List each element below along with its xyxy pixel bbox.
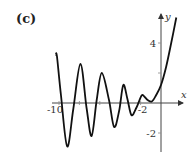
chart: -10-24-2xy	[0, 0, 195, 156]
curve-line	[56, 18, 176, 147]
x-axis-label: x	[181, 89, 187, 100]
axes: -10-24-2xy	[47, 11, 187, 152]
x-tick-label: -2	[138, 104, 148, 115]
y-axis-label: y	[164, 11, 171, 22]
x-tick-label: -10	[47, 104, 63, 115]
y-tick-label: 4	[150, 38, 156, 49]
y-tick-label: -2	[146, 128, 156, 139]
function-curve	[56, 18, 176, 147]
